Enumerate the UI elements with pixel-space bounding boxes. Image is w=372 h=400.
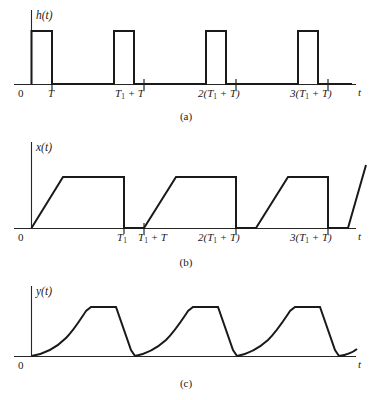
tick-label-b-4: 3(T1 + T): [290, 232, 332, 243]
tick-label-a-3: 2(T1 + T): [198, 88, 240, 99]
tick-label-a-1: T: [48, 88, 54, 99]
panel-c-xlabel: t: [358, 358, 361, 370]
panel-c-caption: (c): [0, 377, 372, 389]
panel-a-origin-label: 0: [18, 87, 24, 99]
panel-c-origin-label: 0: [18, 359, 24, 371]
waveform-y: [32, 307, 358, 356]
tick-label-b-2: T1 + T: [138, 232, 167, 243]
panel-b-caption: (b): [0, 256, 372, 268]
tick-label-a-4: 3(T1 + T): [290, 88, 332, 99]
tick-label-b-3: 2(T1 + T): [198, 232, 240, 243]
panel-b-ylabel: x(t): [36, 141, 52, 153]
panel-c-ylabel: y(t): [36, 285, 52, 297]
panel-a: h(t) 0 T T1 + T 2(T1 + T) 3(T1 + T) t (a…: [0, 0, 372, 132]
waveform-h: [32, 31, 353, 84]
tick-label-b-1: T1: [117, 232, 127, 243]
panel-a-ylabel: h(t): [36, 9, 53, 21]
tick-label-a-2: T1 + T: [115, 88, 144, 99]
waveform-x: [32, 165, 367, 228]
panel-a-xlabel: t: [358, 86, 361, 98]
panel-b-xlabel: t: [358, 230, 361, 242]
panel-b: x(t) 0 T1 T1 + T 2(T1 + T) 3(T1 + T) t (…: [0, 132, 372, 280]
panel-b-origin-label: 0: [18, 231, 24, 243]
panel-a-caption: (a): [0, 110, 372, 122]
panel-c: y(t) 0 t (c): [0, 280, 372, 400]
signal-figure: h(t) 0 T T1 + T 2(T1 + T) 3(T1 + T) t (a…: [0, 0, 372, 400]
